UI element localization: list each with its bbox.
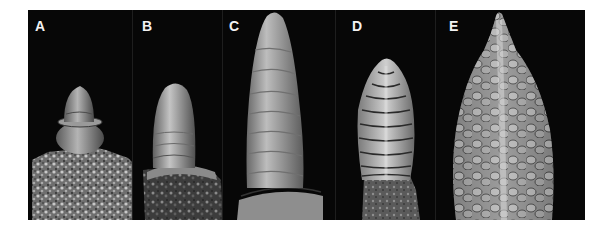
specimen-a-image <box>28 10 132 220</box>
panel-a: A <box>28 10 132 220</box>
panel-label-a: A <box>35 19 45 33</box>
panel-label-c: C <box>229 19 239 33</box>
panel-label-b: B <box>142 19 152 33</box>
micrograph-figure: A <box>28 10 585 220</box>
panel-c: C <box>222 10 336 220</box>
panel-label-d: D <box>352 19 362 33</box>
specimen-d-image <box>336 10 436 220</box>
panel-b: B <box>132 10 223 220</box>
specimen-e-image <box>436 10 585 220</box>
panel-d: D <box>335 10 436 220</box>
specimen-c-image <box>223 10 336 220</box>
specimen-b-image <box>133 10 223 220</box>
panel-label-e: E <box>449 19 458 33</box>
panel-e: E <box>435 10 585 220</box>
